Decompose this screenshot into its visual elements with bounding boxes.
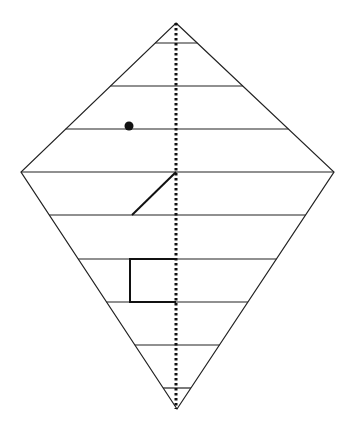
diagonal-segment — [132, 172, 176, 215]
kite-outline — [21, 23, 334, 409]
filled-dot-marker — [125, 122, 134, 131]
right-angle-rectangle — [130, 259, 176, 302]
kite-diagram — [0, 0, 350, 427]
